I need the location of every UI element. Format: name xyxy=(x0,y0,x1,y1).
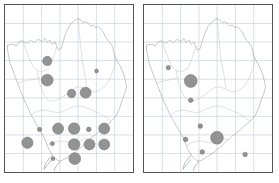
map-symbol xyxy=(95,69,99,73)
map-panel-left xyxy=(4,4,134,173)
map-symbol xyxy=(41,74,53,86)
map-symbol xyxy=(37,127,41,131)
map-symbol xyxy=(53,123,64,134)
plot-area-right xyxy=(144,5,272,172)
map-symbol xyxy=(166,65,170,69)
map-symbol xyxy=(68,139,80,151)
map-symbol xyxy=(22,137,33,148)
map-symbol xyxy=(184,75,197,88)
map-symbol xyxy=(99,139,110,150)
map-symbol xyxy=(50,142,54,146)
symbol-layer-left xyxy=(5,5,133,172)
figure-root xyxy=(0,0,279,183)
map-symbol xyxy=(69,153,81,165)
map-symbol xyxy=(67,89,75,97)
plot-area-left xyxy=(5,5,133,172)
map-symbol xyxy=(198,124,203,129)
map-symbol xyxy=(183,137,188,142)
map-symbol xyxy=(200,150,205,155)
map-symbol xyxy=(51,157,55,161)
map-symbol xyxy=(99,123,110,134)
map-symbol xyxy=(243,152,248,157)
symbol-layer-right xyxy=(144,5,272,172)
map-symbol xyxy=(84,139,95,150)
map-symbol xyxy=(87,127,92,132)
map-symbol xyxy=(43,56,52,65)
map-symbol xyxy=(211,131,224,144)
map-panel-right xyxy=(143,4,273,173)
map-symbol xyxy=(80,87,91,98)
map-symbol xyxy=(188,98,193,103)
map-symbol xyxy=(68,123,80,135)
